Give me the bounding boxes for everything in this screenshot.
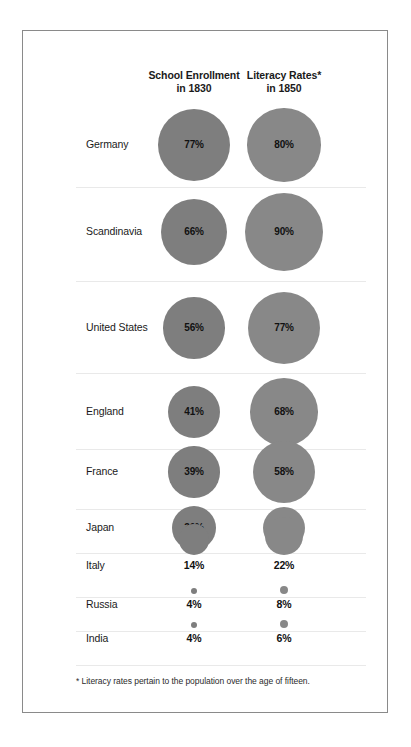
bubble-literacy-england: 68% bbox=[250, 378, 318, 446]
row-divider bbox=[76, 187, 366, 188]
bubble-chart: School Enrollment in 1830 Literacy Rates… bbox=[23, 31, 387, 712]
row-label-germany: Germany bbox=[86, 138, 128, 150]
row-label-france: France bbox=[86, 465, 118, 477]
row-divider bbox=[76, 509, 366, 510]
row-label-japan: Japan bbox=[86, 521, 114, 533]
chart-footnote: * Literacy rates pertain to the populati… bbox=[76, 676, 376, 686]
bubble-literacy-russia bbox=[280, 586, 289, 595]
bubble-value: 6% bbox=[244, 632, 324, 644]
row-label-russia: Russia bbox=[86, 598, 118, 610]
row-label-england: England bbox=[86, 405, 124, 417]
row-divider bbox=[76, 449, 366, 450]
row-label-india: India bbox=[86, 632, 108, 644]
bubble-value: 56% bbox=[184, 323, 203, 333]
bubble-value: 4% bbox=[154, 598, 234, 610]
column-header-literacy: Literacy Rates* in 1850 bbox=[214, 69, 354, 94]
chart-frame: School Enrollment in 1830 Literacy Rates… bbox=[22, 30, 388, 713]
bubble-enrollment-india bbox=[191, 622, 198, 629]
bubble-enrollment-italy bbox=[179, 524, 210, 555]
bubble-value: 14% bbox=[154, 559, 234, 571]
bubble-enrollment-scandinavia: 66% bbox=[161, 199, 228, 266]
bubble-literacy-india bbox=[280, 620, 289, 629]
column-header-literacy-line1: Literacy Rates* bbox=[247, 69, 321, 81]
bubble-value: 66% bbox=[184, 227, 203, 237]
bubble-value: 90% bbox=[274, 227, 293, 237]
row-divider bbox=[76, 665, 366, 666]
bubble-value: 8% bbox=[244, 598, 324, 610]
bubble-enrollment-england: 41% bbox=[168, 386, 221, 439]
bubble-literacy-germany: 80% bbox=[247, 108, 320, 181]
bubble-value: 80% bbox=[274, 140, 293, 150]
bubble-enrollment-germany: 77% bbox=[158, 109, 230, 181]
bubble-value: 22% bbox=[244, 559, 324, 571]
bubble-value: 68% bbox=[274, 407, 293, 417]
row-divider bbox=[76, 281, 366, 282]
bubble-literacy-italy bbox=[265, 517, 303, 555]
bubble-literacy-united-states: 77% bbox=[248, 292, 320, 364]
bubble-value: 58% bbox=[274, 467, 293, 477]
bubble-value: 39% bbox=[184, 467, 203, 477]
bubble-literacy-france: 58% bbox=[253, 441, 315, 503]
row-divider bbox=[76, 373, 366, 374]
bubble-value: 77% bbox=[274, 323, 293, 333]
bubble-value: 77% bbox=[184, 140, 203, 150]
row-label-united-states: United States bbox=[86, 321, 148, 333]
row-divider bbox=[76, 553, 366, 554]
row-label-scandinavia: Scandinavia bbox=[86, 225, 142, 237]
bubble-enrollment-france: 39% bbox=[168, 446, 219, 497]
row-label-italy: Italy bbox=[86, 559, 105, 571]
bubble-value: 4% bbox=[154, 632, 234, 644]
bubble-value: 41% bbox=[184, 407, 203, 417]
bubble-enrollment-united-states: 56% bbox=[163, 297, 224, 358]
bubble-enrollment-russia bbox=[191, 588, 198, 595]
bubble-literacy-scandinavia: 90% bbox=[245, 193, 323, 271]
column-header-literacy-line2: in 1850 bbox=[214, 82, 354, 95]
